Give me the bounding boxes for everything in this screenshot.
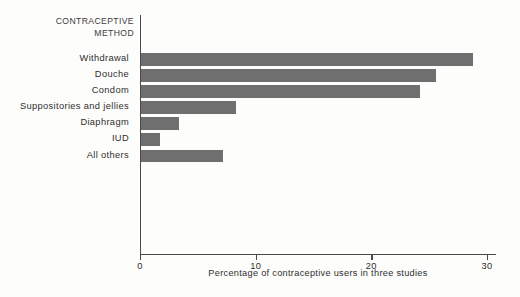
category-label-all-others: All others <box>0 149 134 165</box>
bar-iud <box>141 133 160 146</box>
plot-area: 0102030 <box>140 15 496 255</box>
bar-diaphragm <box>141 117 179 130</box>
category-label-douche: Douche <box>0 68 134 84</box>
bar-row <box>141 116 496 132</box>
category-label-condom: Condom <box>0 84 134 100</box>
bar-row <box>141 52 496 68</box>
y-axis-title: CONTRACEPTIVE METHOD <box>0 16 134 39</box>
bar-row <box>141 100 496 116</box>
x-tick-mark <box>140 255 141 260</box>
x-axis-caption: Percentage of contraceptive users in thr… <box>140 268 496 278</box>
x-tick-mark <box>371 255 372 260</box>
category-label-suppositories-and-jellies: Suppositories and jellies <box>0 100 134 116</box>
x-tick-mark <box>256 255 257 260</box>
category-label-iud: IUD <box>0 132 134 148</box>
x-axis-line <box>140 254 496 255</box>
bar-row <box>141 84 496 100</box>
bar-condom <box>141 85 420 98</box>
bar-all-others <box>141 150 223 163</box>
bar-row <box>141 132 496 148</box>
bar-series <box>141 52 496 165</box>
bar-chart-figure: CONTRACEPTIVE METHOD Withdrawal Douche C… <box>0 0 520 297</box>
bar-suppositories-and-jellies <box>141 101 236 114</box>
bar-douche <box>141 69 436 82</box>
category-label-withdrawal: Withdrawal <box>0 52 134 68</box>
category-axis-labels: Withdrawal Douche Condom Suppositories a… <box>0 52 134 165</box>
x-tick-mark <box>487 255 488 260</box>
bar-row <box>141 149 496 165</box>
category-label-diaphragm: Diaphragm <box>0 116 134 132</box>
bar-withdrawal <box>141 53 473 66</box>
bar-row <box>141 68 496 84</box>
